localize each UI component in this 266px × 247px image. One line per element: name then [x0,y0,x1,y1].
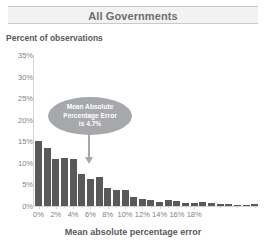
x-axis-minor-tick-mark [82,206,83,208]
callout-line-3: is 4.7% [79,120,101,128]
y-axis-tick-mark [30,98,34,99]
y-axis-tick-mark [30,184,34,185]
x-axis-tick-label: 16% [169,210,184,219]
x-axis-minor-tick-mark [186,206,187,208]
x-axis-tick-mark [56,206,57,209]
bar [61,158,68,206]
bar [139,199,146,206]
x-axis-tick-label: 10% [117,210,132,219]
x-axis-tick-mark [194,206,195,209]
bar [208,203,215,206]
x-axis-tick-mark [125,206,126,209]
chart-plot-area: 0%5%10%15%20%25%30%35% 0%2%4%6%8%10%12%1… [0,0,266,247]
bar [104,188,111,206]
bar [87,179,94,206]
bar [122,190,129,206]
bar [52,159,59,206]
bar [78,174,85,206]
callout-text: Mean Absolute Percentage Error is 4.7% [48,97,132,135]
y-axis-tick-mark [30,77,34,78]
x-axis-line [33,206,258,207]
x-axis-minor-tick-mark [168,206,169,208]
x-axis-title: Mean absolute percentage error [0,227,266,237]
x-axis-tick-label: 14% [152,210,167,219]
y-axis-tick-mark [30,55,34,56]
x-axis-minor-tick-mark [99,206,100,208]
mean-absolute-percentage-error-callout: Mean Absolute Percentage Error is 4.7% [48,97,132,135]
y-axis-tick-mark [30,120,34,121]
x-axis-tick-mark [108,206,109,209]
x-axis-minor-tick-mark [237,206,238,208]
x-axis-tick-label: 4% [68,210,79,219]
x-axis-tick-mark [160,206,161,209]
x-axis-minor-tick-mark [64,206,65,208]
x-axis-minor-tick-mark [220,206,221,208]
x-axis-minor-tick-mark [255,206,256,208]
x-axis-tick-mark [73,206,74,209]
x-axis-tick-label: 18% [187,210,202,219]
callout-line-2: Percentage Error [63,112,117,120]
x-axis-tick-mark [142,206,143,209]
x-axis-minor-tick-mark [116,206,117,208]
callout-line-1: Mean Absolute [67,103,114,111]
bar [44,148,51,206]
x-axis-minor-tick-mark [203,206,204,208]
bar [225,204,232,206]
x-axis-minor-tick-mark [151,206,152,208]
bar [130,197,137,206]
bar [113,190,120,206]
x-axis-tick-mark [177,206,178,209]
x-axis-tick-label: 8% [102,210,113,219]
bar [243,205,250,206]
x-axis-tick-label: 0% [33,210,44,219]
x-axis-tick-label: 12% [135,210,150,219]
bar [96,177,103,206]
x-axis-tick-label: 6% [85,210,96,219]
bar [35,141,42,206]
bar [70,159,77,206]
x-axis-tick-mark [90,206,91,209]
y-axis-tick-mark [30,163,34,164]
x-axis-tick-mark [39,206,40,209]
x-axis-minor-tick-mark [47,206,48,208]
x-axis-minor-tick-mark [134,206,135,208]
y-axis-tick-mark [30,141,34,142]
callout-arrow-head-icon [85,157,93,164]
y-axis-line [33,55,34,206]
x-axis-tick-label: 2% [50,210,61,219]
